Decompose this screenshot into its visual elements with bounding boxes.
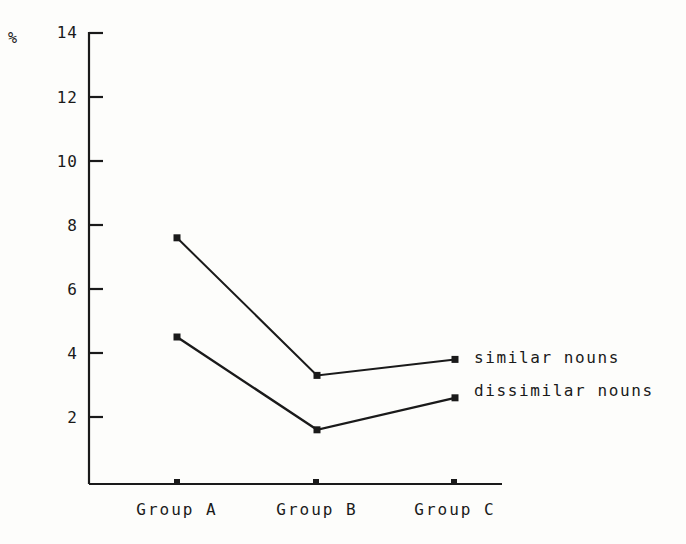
- data-point-similar-group-a: [174, 234, 181, 241]
- chart-container: % 14 12 10 8 6 4 2 Group A Group B Group…: [0, 0, 686, 544]
- series-markers-dissimilar-nouns: [174, 334, 459, 434]
- series-line-similar-nouns: [177, 238, 455, 376]
- series-label-dissimilar-nouns: dissimilar nouns: [474, 381, 654, 400]
- y-axis-label-2: 2: [38, 408, 78, 427]
- series-label-similar-nouns: similar nouns: [474, 348, 620, 367]
- x-axis-label-group-b: Group B: [247, 500, 387, 519]
- data-point-similar-group-c: [452, 356, 459, 363]
- y-axis-label-4: 4: [38, 344, 78, 363]
- x-tick-group-b: [313, 479, 319, 484]
- y-axis-label-8: 8: [38, 216, 78, 235]
- data-point-dissimilar-group-a: [174, 334, 181, 341]
- x-axis-label-group-c: Group C: [385, 500, 525, 519]
- y-axis-label-14: 14: [38, 23, 78, 42]
- data-point-similar-group-b: [314, 372, 321, 379]
- y-axis-unit-label: %: [8, 29, 18, 47]
- x-tick-group-a: [174, 479, 180, 484]
- chart-plot-area: [0, 0, 686, 544]
- y-axis-label-12: 12: [38, 88, 78, 107]
- data-point-dissimilar-group-c: [452, 394, 459, 401]
- series-line-dissimilar-nouns: [177, 337, 455, 430]
- y-axis-ticks: [89, 33, 103, 417]
- data-point-dissimilar-group-b: [314, 426, 321, 433]
- y-axis-label-10: 10: [38, 152, 78, 171]
- x-tick-group-c: [451, 479, 457, 484]
- series-markers-similar-nouns: [174, 234, 459, 379]
- y-axis-label-6: 6: [38, 280, 78, 299]
- x-axis-label-group-a: Group A: [107, 500, 247, 519]
